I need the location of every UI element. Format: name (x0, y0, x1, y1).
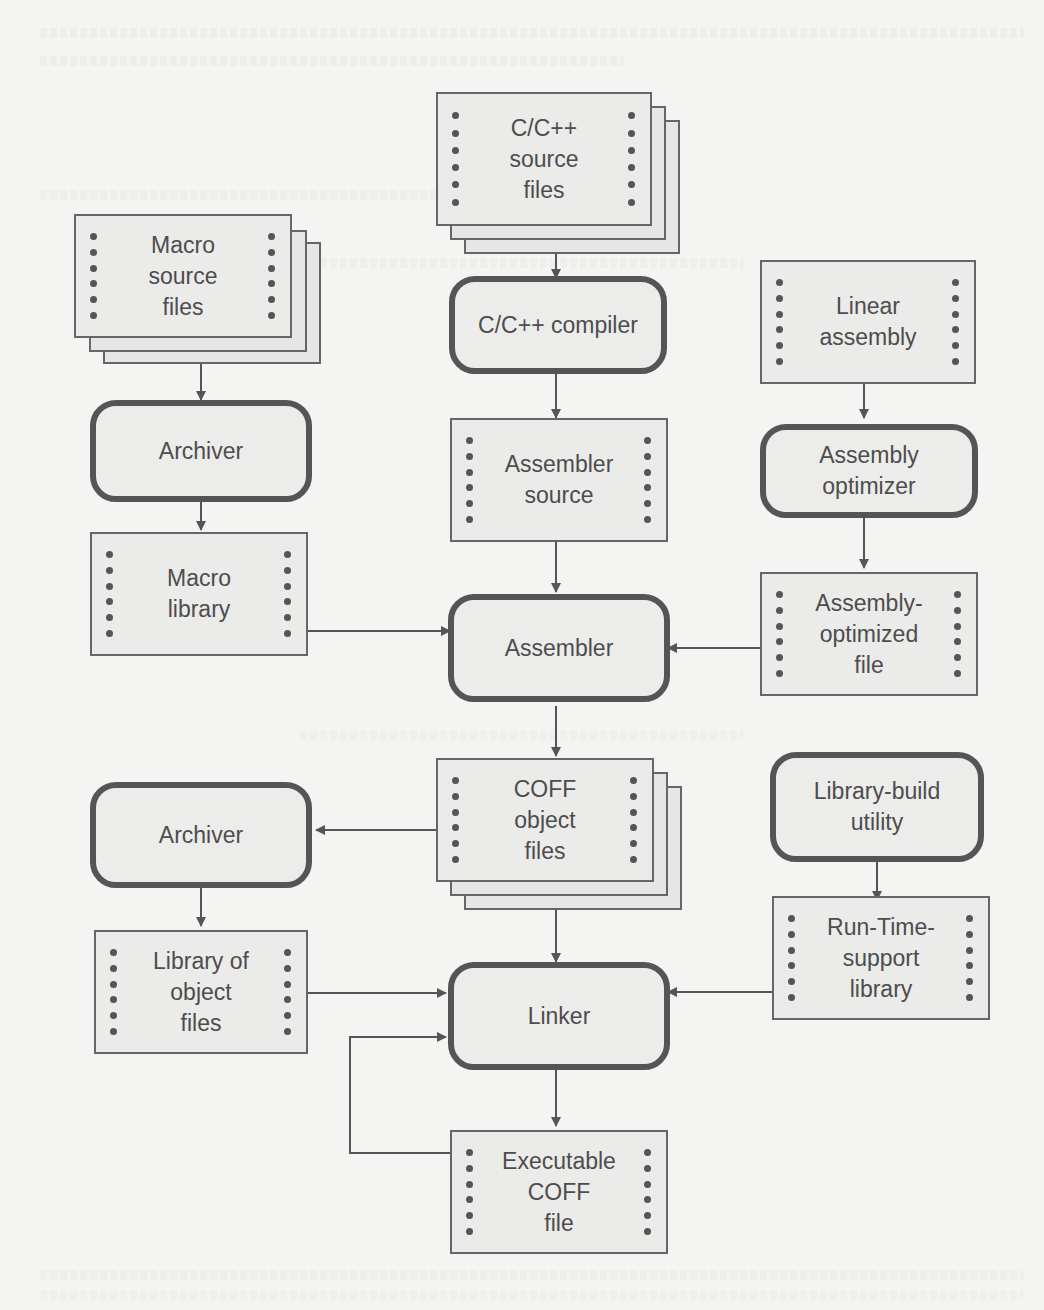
perforation-dots-left (776, 574, 784, 694)
archiver-bottom[interactable]: Archiver (90, 782, 312, 888)
perforation-dots-right (644, 420, 652, 540)
executable-coff-file[interactable]: Executable COFF file (450, 1130, 668, 1254)
archiver-top-label: Archiver (159, 436, 243, 467)
assembly-optimizer[interactable]: Assembly optimizer (760, 424, 978, 518)
assembler-source-file[interactable]: Assembler source (450, 418, 668, 542)
perforation-dots-left (776, 262, 784, 382)
macro-library-file[interactable]: Macro library (90, 532, 308, 656)
cpp-source-files-label: C/C++ source files (509, 113, 578, 206)
assembly-optimized-file-label: Assembly- optimized file (815, 588, 922, 681)
macro-source-files[interactable]: Macro source files (74, 214, 292, 338)
runtime-support-library-label: Run-Time- support library (827, 912, 935, 1005)
linear-assembly-file[interactable]: Linear assembly (760, 260, 976, 384)
library-of-object-files-label: Library of object files (153, 946, 249, 1039)
executable-coff-file-label: Executable COFF file (502, 1146, 616, 1239)
perforation-dots-left (106, 534, 114, 654)
perforation-dots-right (268, 216, 276, 336)
edge-executable-to-linker (350, 1037, 450, 1153)
macro-library-label: Macro library (167, 563, 231, 625)
perforation-dots-left (110, 932, 118, 1052)
perforation-dots-right (954, 574, 962, 694)
assembler-label: Assembler (505, 633, 614, 664)
linker-label: Linker (528, 1001, 591, 1032)
cpp-compiler-label: C/C++ compiler (478, 310, 638, 341)
cpp-source-files[interactable]: C/C++ source files (436, 92, 652, 226)
coff-object-files-label: COFF object files (514, 774, 577, 867)
perforation-dots-right (628, 94, 636, 224)
linker[interactable]: Linker (448, 962, 670, 1070)
perforation-dots-right (966, 898, 974, 1018)
assembly-optimizer-label: Assembly optimizer (819, 440, 919, 502)
library-build-utility-label: Library-build utility (814, 776, 941, 838)
perforation-dots-right (952, 262, 960, 382)
perforation-dots-right (644, 1132, 652, 1252)
runtime-support-library[interactable]: Run-Time- support library (772, 896, 990, 1020)
coff-object-files[interactable]: COFF object files (436, 758, 654, 882)
perforation-dots-left (452, 760, 460, 880)
assembly-optimized-file[interactable]: Assembly- optimized file (760, 572, 978, 696)
cpp-compiler[interactable]: C/C++ compiler (449, 276, 667, 374)
archiver-top[interactable]: Archiver (90, 400, 312, 502)
linear-assembly-label: Linear assembly (819, 291, 916, 353)
perforation-dots-right (630, 760, 638, 880)
perforation-dots-left (788, 898, 796, 1018)
perforation-dots-left (452, 94, 460, 224)
perforation-dots-left (466, 1132, 474, 1252)
library-build-utility[interactable]: Library-build utility (770, 752, 984, 862)
perforation-dots-left (90, 216, 98, 336)
macro-source-files-label: Macro source files (148, 230, 217, 323)
perforation-dots-left (466, 420, 474, 540)
assembler-source-label: Assembler source (505, 449, 614, 511)
perforation-dots-right (284, 932, 292, 1052)
archiver-bottom-label: Archiver (159, 820, 243, 851)
assembler[interactable]: Assembler (448, 594, 670, 702)
perforation-dots-right (284, 534, 292, 654)
library-of-object-files[interactable]: Library of object files (94, 930, 308, 1054)
